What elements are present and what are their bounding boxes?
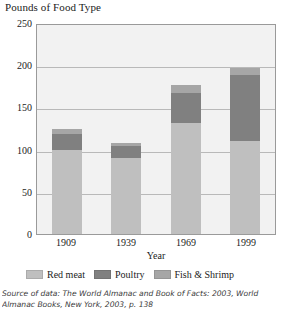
- bars-container: [37, 25, 275, 234]
- bar-segment-red-meat-1909: [52, 150, 82, 234]
- x-tick-1939: 1939: [111, 237, 141, 251]
- legend-item-red-meat[interactable]: Red meat: [26, 269, 85, 280]
- legend-label-poultry: Poultry: [115, 269, 144, 280]
- chart-legend: Red meat Poultry Fish & Shrimp: [26, 268, 276, 281]
- bar-segment-red-meat-1969: [171, 123, 201, 234]
- bar-segment-poultry-1999: [230, 75, 260, 141]
- source-note-line-1: Source of data: The World Almanac and Bo…: [2, 289, 285, 300]
- bar-segment-poultry-1939: [111, 146, 141, 158]
- legend-item-fish-shrimp[interactable]: Fish & Shrimp: [154, 269, 234, 280]
- bar-group-1999[interactable]: [230, 25, 260, 234]
- legend-swatch-poultry: [94, 270, 111, 279]
- legend-swatch-fish-shrimp: [154, 270, 171, 279]
- bar-segment-red-meat-1939: [111, 158, 141, 234]
- source-note-line-2: Almanac Books, New York, 2003, p. 138: [2, 300, 285, 309]
- bar-segment-fish-1969: [171, 85, 201, 93]
- legend-label-red-meat: Red meat: [47, 269, 85, 280]
- x-tick-1969: 1969: [171, 237, 201, 251]
- source-note: Source of data: The World Almanac and Bo…: [2, 289, 285, 309]
- y-tick-100: 100: [2, 146, 32, 156]
- legend-item-poultry[interactable]: Poultry: [94, 269, 144, 280]
- x-axis-title: Year: [36, 250, 276, 261]
- bar-segment-fish-1999: [230, 68, 260, 76]
- chart-title: Pounds of Food Type: [5, 1, 101, 13]
- x-tick-1909: 1909: [51, 237, 81, 251]
- y-tick-250: 250: [2, 19, 32, 29]
- legend-label-fish-shrimp: Fish & Shrimp: [175, 269, 234, 280]
- bar-group-1969[interactable]: [171, 25, 201, 234]
- bar-segment-poultry-1909: [52, 134, 82, 149]
- bar-segment-poultry-1969: [171, 93, 201, 123]
- y-tick-0: 0: [2, 230, 32, 240]
- y-tick-150: 150: [2, 103, 32, 113]
- plot-area: [36, 24, 276, 235]
- bar-group-1909[interactable]: [52, 25, 82, 234]
- chart-figure: Pounds of Food Type 250 200 150 100 50 0: [0, 0, 285, 309]
- bar-group-1939[interactable]: [111, 25, 141, 234]
- bar-segment-red-meat-1999: [230, 141, 260, 234]
- legend-swatch-red-meat: [26, 270, 43, 279]
- x-tick-1999: 1999: [231, 237, 261, 251]
- x-axis: 1909 1939 1969 1999: [36, 237, 276, 251]
- y-axis: 250 200 150 100 50 0: [0, 24, 32, 235]
- y-tick-200: 200: [2, 61, 32, 71]
- y-tick-50: 50: [2, 188, 32, 198]
